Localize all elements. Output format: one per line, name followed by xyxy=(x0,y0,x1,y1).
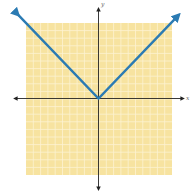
y-axis-label: y xyxy=(101,0,104,7)
x-axis-label: x xyxy=(186,94,189,101)
graph xyxy=(0,0,192,193)
